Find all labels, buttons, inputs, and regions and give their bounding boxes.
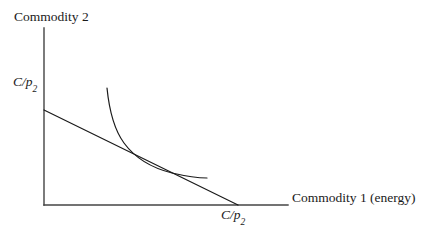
budget-line xyxy=(44,110,238,205)
x-axis-title: Commodity 1 (energy) xyxy=(292,191,415,205)
y-axis-title: Commodity 2 xyxy=(14,10,89,24)
x-intercept-numerator: C xyxy=(221,207,230,222)
consumer-choice-figure: Commodity 2 Commodity 1 (energy) C/p2 C/… xyxy=(0,0,431,242)
indifference-curve xyxy=(107,88,207,178)
plot-area xyxy=(0,0,431,242)
y-intercept-subscript: 2 xyxy=(33,84,38,94)
x-intercept-denominator: p xyxy=(234,207,241,222)
x-intercept-subscript: 2 xyxy=(241,217,246,227)
y-intercept-numerator: C xyxy=(13,74,22,89)
x-intercept-label: C/p2 xyxy=(221,208,245,225)
y-intercept-label: C/p2 xyxy=(13,75,37,92)
y-intercept-denominator: p xyxy=(26,74,33,89)
